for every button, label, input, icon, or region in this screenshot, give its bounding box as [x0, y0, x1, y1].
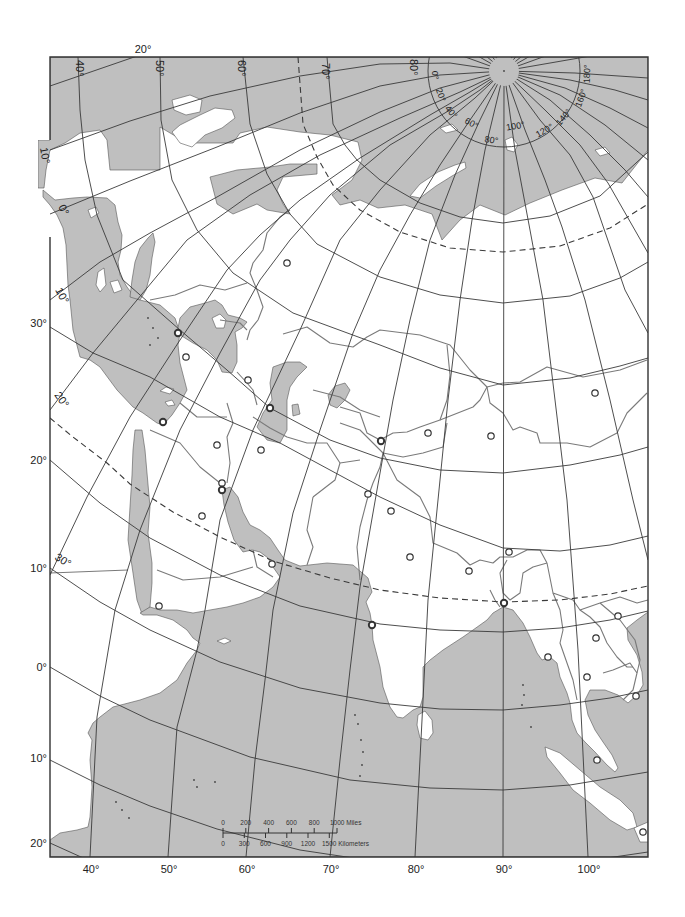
top-parallel-label: 60° — [236, 60, 248, 77]
polar-label: 0° — [430, 71, 440, 80]
scale-km-label: 300 — [239, 840, 250, 847]
city-marker — [258, 447, 264, 453]
city-marker — [214, 442, 220, 448]
top-parallel-label: 80° — [408, 59, 420, 76]
scale-miles-label: 800 — [309, 819, 320, 826]
left-parallel-label: 10° — [30, 752, 47, 764]
scale-km-label: 900 — [281, 840, 292, 847]
top-parallel-label: 40° — [74, 60, 86, 77]
bottom-meridian-label: 40° — [83, 863, 100, 875]
city-marker — [388, 508, 394, 514]
city-marker — [219, 480, 225, 486]
city-marker — [594, 757, 600, 763]
city-marker — [425, 430, 431, 436]
polar-label: 80° — [484, 134, 499, 146]
top-parallel-label: 50° — [154, 60, 166, 77]
city-marker — [183, 354, 189, 360]
city-marker — [593, 635, 599, 641]
top-meridian-label: 20° — [135, 43, 152, 55]
city-marker — [466, 568, 472, 574]
city-marker — [407, 554, 413, 560]
city-marker — [284, 260, 290, 266]
scale-km-label: 0 — [221, 840, 225, 847]
scale-miles-label: 200 — [240, 819, 251, 826]
left-parallel-label: 10° — [30, 562, 47, 574]
bottom-meridian-label: 90° — [496, 863, 513, 875]
bottom-meridian-label: 60° — [239, 863, 256, 875]
city-marker — [175, 330, 181, 336]
north-pole-dot — [503, 70, 505, 72]
left-parallel-label: 20° — [30, 454, 47, 466]
left-parallel-label: 20° — [30, 837, 47, 849]
city-marker — [501, 600, 507, 606]
bottom-meridian-label: 80° — [408, 863, 425, 875]
city-marker — [488, 433, 494, 439]
city-marker — [545, 654, 551, 660]
map-body: 0 200 400 600 800 1000 Miles 0 300 600 9… — [30, 0, 660, 870]
city-marker — [199, 513, 205, 519]
left-parallel-label: 0° — [36, 661, 47, 673]
scale-miles-label: 1000 Miles — [330, 819, 362, 826]
city-marker — [640, 829, 646, 835]
city-marker — [245, 377, 251, 383]
city-marker — [633, 693, 639, 699]
scale-miles-label: 400 — [263, 819, 274, 826]
city-marker — [269, 561, 275, 567]
scale-km-label: 1500 Kilometers — [322, 840, 370, 847]
scale-miles-label: 0 — [221, 819, 225, 826]
city-marker — [378, 438, 384, 444]
bottom-meridian-label: 100° — [578, 863, 601, 875]
city-marker — [369, 622, 375, 628]
city-marker — [160, 419, 166, 425]
city-marker — [219, 487, 225, 493]
left-parallel-label: 30° — [30, 317, 47, 329]
city-marker — [506, 549, 512, 555]
city-marker — [156, 603, 162, 609]
scale-km-label: 600 — [260, 840, 271, 847]
polar-label: 180° — [582, 64, 593, 83]
outline-map: 0 200 400 600 800 1000 Miles 0 300 600 9… — [0, 0, 685, 917]
city-marker — [592, 390, 598, 396]
city-marker — [267, 405, 273, 411]
bottom-meridian-label: 50° — [161, 863, 178, 875]
top-parallel-label: 70° — [320, 63, 332, 80]
city-marker — [365, 491, 371, 497]
scale-km-label: 1200 — [301, 840, 316, 847]
left-parallel-labels: 30° 20° 10° 0° 10° 20° — [30, 317, 47, 849]
bottom-meridian-label: 70° — [323, 863, 340, 875]
bottom-meridian-labels: 40° 50° 60° 70° 80° 90° 100° — [83, 863, 601, 875]
city-marker — [584, 674, 590, 680]
scale-miles-label: 600 — [286, 819, 297, 826]
city-marker — [615, 613, 621, 619]
